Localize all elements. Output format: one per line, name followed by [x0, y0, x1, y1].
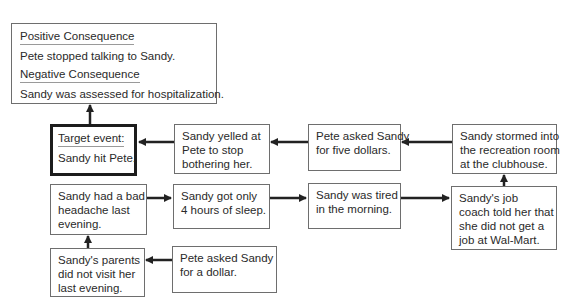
node-yelled: Sandy yelled at Pete to stop bothering h… — [174, 124, 270, 174]
node-text: at the clubhouse. — [460, 157, 549, 171]
node-sleep: Sandy got only 4 hours of sleep. — [173, 184, 270, 229]
node-text: last evening. — [58, 281, 137, 295]
target-event-box: Target event: Sandy hit Pete. — [50, 124, 137, 176]
node-text: coach told her that — [459, 205, 549, 219]
node-text: the recreation room — [460, 143, 549, 157]
node-text: in the morning. — [316, 202, 393, 216]
consequences-box: Positive Consequence Pete stopped talkin… — [11, 23, 217, 104]
node-text: Sandy got only — [181, 189, 262, 203]
node-text: Sandy was tired — [316, 188, 393, 202]
node-text: for five dollars. — [316, 143, 393, 157]
node-text: 4 hours of sleep. — [181, 203, 262, 217]
negative-consequence-text: Sandy was assessed for hospitalization. — [20, 87, 208, 101]
node-text: Sandy's parents — [58, 253, 137, 267]
node-text: for a dollar. — [180, 265, 269, 279]
node-text: Sandy yelled at — [182, 129, 262, 143]
node-text: evening. — [58, 217, 139, 231]
node-text: Sandy had a bad — [58, 189, 139, 203]
target-event-text: Sandy hit Pete. — [58, 151, 129, 165]
node-headache: Sandy had a bad headache last evening. — [50, 184, 147, 235]
positive-consequence-header: Positive Consequence — [20, 29, 134, 45]
node-parents: Sandy's parents did not visit her last e… — [50, 248, 145, 297]
node-text: Pete asked Sandy — [316, 129, 393, 143]
target-event-header: Target event: — [58, 131, 124, 147]
positive-consequence-text: Pete stopped talking to Sandy. — [20, 49, 208, 63]
node-text: bothering her. — [182, 157, 262, 171]
node-dollar: Pete asked Sandy for a dollar. — [172, 246, 277, 293]
node-text: Pete to stop — [182, 143, 262, 157]
node-text: Sandy's job — [459, 191, 549, 205]
node-text: did not visit her — [58, 267, 137, 281]
node-text: she did not get a — [459, 219, 549, 233]
node-tired: Sandy was tired in the morning. — [308, 183, 401, 229]
node-job-coach: Sandy's job coach told her that she did … — [451, 186, 557, 250]
node-text: headache last — [58, 203, 139, 217]
node-stormed: Sandy stormed into the recreation room a… — [452, 124, 557, 174]
node-five-dollars: Pete asked Sandy for five dollars. — [308, 124, 401, 171]
node-text: job at Wal-Mart. — [459, 233, 549, 247]
node-text: Pete asked Sandy — [180, 251, 269, 265]
negative-consequence-header: Negative Consequence — [20, 67, 140, 83]
node-text: Sandy stormed into — [460, 129, 549, 143]
